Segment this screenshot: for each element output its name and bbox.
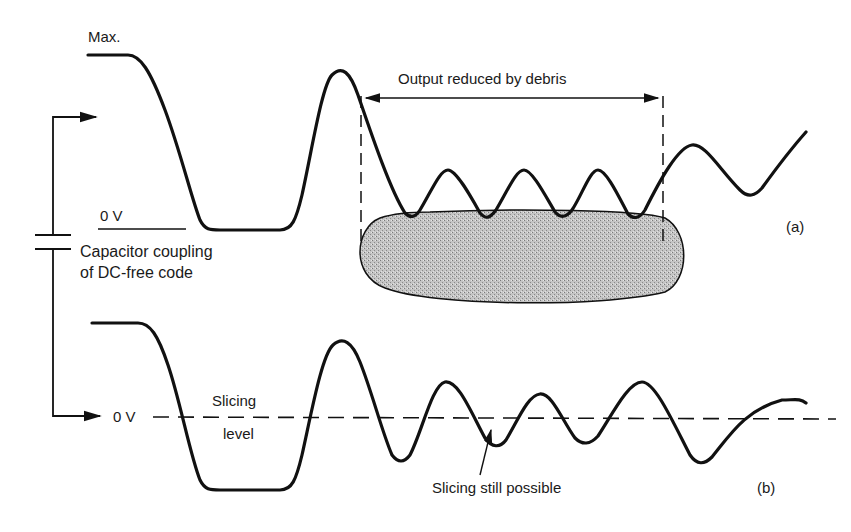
slicing-level-label-bottom: level — [223, 425, 254, 443]
waveform-b — [92, 323, 806, 490]
slicing-level-label-top: Slicing — [212, 392, 256, 410]
zero-v-label-a: 0 V — [100, 207, 123, 225]
panel-a-label: (a) — [786, 218, 804, 236]
zero-v-label-b: 0 V — [113, 408, 136, 426]
capacitor-feedback-top — [53, 117, 96, 235]
capacitor-label: Capacitor coupling of DC-free code — [80, 241, 220, 283]
panel-b-label: (b) — [757, 479, 775, 497]
slicing-possible-label: Slicing still possible — [432, 479, 561, 497]
debris-region — [360, 210, 684, 303]
slicing-level-line — [153, 417, 836, 419]
output-reduced-label: Output reduced by debris — [398, 70, 566, 88]
max-label: Max. — [88, 28, 121, 46]
